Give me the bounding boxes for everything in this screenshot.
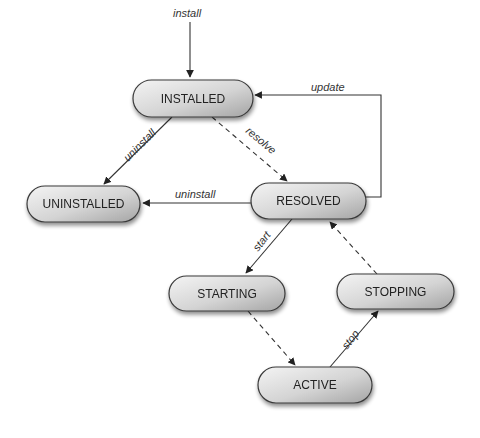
edge-stopping-to-resolved (330, 222, 377, 274)
edge-resolve: resolve (212, 117, 287, 181)
edge-label-update: update (311, 81, 345, 93)
node-label-starting: STARTING (197, 287, 257, 301)
node-label-resolved: RESOLVED (276, 194, 341, 208)
node-label-stopping: STOPPING (365, 285, 427, 299)
edge-label-start: start (250, 228, 273, 253)
edge-update: update (255, 81, 381, 197)
node-installed: INSTALLED (133, 80, 253, 117)
edge-label-uninstall-2: uninstall (175, 188, 216, 200)
node-label-uninstalled: UNINSTALLED (43, 197, 125, 211)
edge-uninstall-from-installed: uninstall (104, 117, 172, 184)
node-resolved: RESOLVED (251, 183, 366, 219)
bundle-lifecycle-diagram: install uninstall resolve uninstall upda… (0, 0, 480, 438)
edge-label-uninstall-1: uninstall (121, 126, 158, 163)
edge-starting-to-active (248, 311, 295, 365)
edge-label-resolve: resolve (244, 124, 279, 156)
node-stopping: STOPPING (337, 274, 454, 309)
node-uninstalled: UNINSTALLED (27, 186, 140, 222)
edge-label-stop: stop (339, 327, 361, 351)
edge-install: install (173, 7, 202, 77)
edge-stop: stop (330, 311, 378, 367)
node-starting: STARTING (169, 276, 285, 311)
edge-uninstall-from-resolved: uninstall (143, 188, 251, 203)
node-label-active: ACTIVE (293, 378, 336, 392)
edge-label-install: install (173, 7, 202, 19)
node-active: ACTIVE (258, 367, 372, 403)
edge-start: start (246, 219, 292, 273)
node-label-installed: INSTALLED (161, 92, 226, 106)
